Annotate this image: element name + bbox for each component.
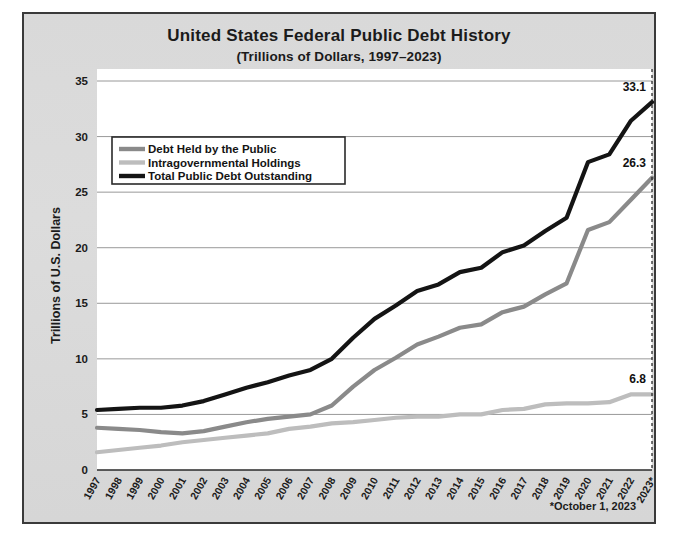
x-axis-tick: 1998 <box>102 475 124 501</box>
y-axis-tick: 0 <box>82 464 88 476</box>
y-axis-labels: 05101520253035 <box>75 75 88 476</box>
x-axis-tick: 2020 <box>572 475 594 501</box>
y-axis-tick: 5 <box>82 408 89 420</box>
x-axis-tick: 2011 <box>380 475 402 501</box>
y-axis-tick: 35 <box>75 75 88 87</box>
y-axis-title-text: Trillions of U.S. Dollars <box>49 207 63 344</box>
x-axis-tick: 2008 <box>315 475 337 501</box>
x-axis-tick: 2018 <box>529 475 551 501</box>
chart-frame: United States Federal Public Debt Histor… <box>22 12 656 524</box>
footnote: *October 1, 2023 <box>550 500 636 512</box>
y-axis-tick: 30 <box>75 131 88 143</box>
x-axis-tick: 2005 <box>251 475 273 501</box>
y-axis-tick: 20 <box>75 242 88 254</box>
legend: Debt Held by the PublicIntragovernmental… <box>112 137 345 184</box>
x-axis-tick: 2015 <box>465 475 487 501</box>
x-axis-tick: 2014 <box>444 475 466 501</box>
x-axis-tick: 1997 <box>81 475 103 501</box>
x-axis-tick: 2003 <box>209 475 231 501</box>
y-axis-title: Trillions of U.S. Dollars <box>49 207 63 344</box>
legend-label: Debt Held by the Public <box>148 143 277 155</box>
x-axis-tick: 2019 <box>550 475 572 501</box>
x-axis-tick: 2006 <box>273 475 295 501</box>
x-axis-tick: 2001 <box>166 475 188 501</box>
series-end-label: 6.8 <box>629 372 646 386</box>
plot-area <box>97 69 652 470</box>
x-axis-tick: 2010 <box>358 475 380 501</box>
chart-plot: 05101520253035 Trillions of U.S. Dollars… <box>24 14 658 526</box>
y-axis-tick: 10 <box>75 353 88 365</box>
x-axis-tick: 2009 <box>337 475 359 501</box>
legend-label: Total Public Debt Outstanding <box>148 170 312 182</box>
series-end-label: 26.3 <box>623 156 647 170</box>
x-axis-tick: 2013 <box>422 475 444 501</box>
legend-label: Intragovernmental Holdings <box>148 157 301 169</box>
y-axis-tick: 15 <box>75 297 88 309</box>
x-axis-tick: 2002 <box>187 475 209 501</box>
x-axis-tick: 2004 <box>230 475 252 501</box>
x-axis-tick: 2012 <box>401 475 423 501</box>
x-axis-tick: 2021 <box>593 475 615 501</box>
series-end-label: 33.1 <box>623 80 647 94</box>
x-axis-tick: 2000 <box>145 475 167 501</box>
x-axis-tick: 2023* <box>634 474 658 505</box>
y-axis-tick: 25 <box>75 186 88 198</box>
x-axis-tick: 2017 <box>508 475 530 501</box>
x-axis-tick: 2022 <box>614 475 636 501</box>
x-axis-tick: 1999 <box>123 475 145 501</box>
x-axis-tick: 2007 <box>294 475 316 501</box>
x-axis-tick: 2016 <box>486 475 508 501</box>
